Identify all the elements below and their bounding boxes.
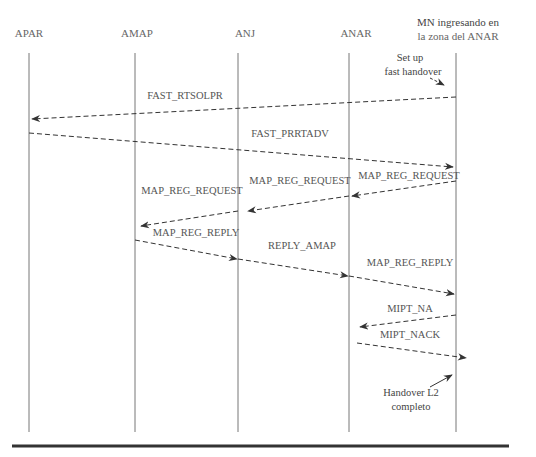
message-label-map-reg-request-3: MAP_REG_REQUEST [141, 185, 243, 196]
note-handover-line2: completo [391, 401, 430, 412]
message-label-mipt-na: MIPT_NA [387, 303, 433, 314]
message-label-map-reg-reply-1: MAP_REG_REPLY [153, 227, 240, 238]
participant-amap-label: AMAP [121, 27, 153, 39]
message-arrow-map-reg-reply-2 [349, 276, 454, 294]
message-arrow-fast-rtsolpr [32, 97, 456, 119]
message-arrow-fast-prrtadv [29, 133, 453, 167]
message-label-map-reg-request-2: MAP_REG_REQUEST [249, 175, 351, 186]
participant-anj-label: ANJ [235, 27, 256, 39]
message-label-fast-rtsolpr: FAST_RTSOLPR [147, 90, 223, 101]
message-arrow-map-reg-request-2 [248, 196, 349, 211]
message-arrow-map-reg-reply-1 [135, 240, 237, 259]
message-arrow-map-reg-request-3 [141, 211, 238, 226]
participant-apar-label: APAR [15, 27, 44, 39]
note-arrow-setup [430, 78, 444, 85]
message-arrow-map-reg-request-1 [352, 181, 456, 196]
message-label-mipt-nack: MIPT_NACK [380, 329, 441, 340]
participant-mn-label-line1: MN ingresando en [417, 16, 499, 28]
message-label-reply-amap: REPLY_AMAP [268, 240, 336, 251]
participant-mn-label-line2: la zona del ANAR [418, 30, 500, 42]
message-arrow-mipt-nack [357, 343, 466, 358]
message-label-map-reg-request-1: MAP_REG_REQUEST [358, 170, 460, 181]
message-label-map-reg-reply-2: MAP_REG_REPLY [367, 257, 454, 268]
note-setup-line1: Set up [397, 52, 424, 63]
message-arrow-mipt-na [360, 315, 456, 327]
message-label-fast-prrtadv: FAST_PRRTADV [251, 128, 329, 139]
note-arrow-handover [430, 375, 452, 387]
note-handover-line1: Handover L2 [383, 387, 439, 398]
message-arrow-reply-amap [238, 259, 348, 276]
note-setup-line2: fast handover [385, 66, 442, 77]
participant-anar-label: ANAR [340, 27, 372, 39]
sequence-diagram: APAR AMAP ANJ ANAR MN ingresando en la z… [0, 0, 536, 457]
